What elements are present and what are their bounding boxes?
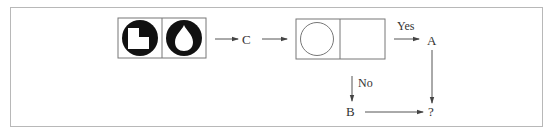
decision-box: [296, 19, 385, 59]
start-box: [118, 18, 206, 58]
node-c: C: [242, 32, 251, 47]
node-a: A: [427, 33, 437, 48]
flowchart-diagram: C Yes A No B ?: [0, 0, 549, 132]
edge-label-yes: Yes: [397, 19, 415, 33]
node-b: B: [346, 104, 355, 119]
node-result-question: ?: [428, 104, 434, 119]
circle-with-square-cutout-icon: [122, 20, 158, 56]
circle-outline-icon: [301, 23, 334, 56]
edge-label-no: No: [358, 76, 373, 90]
ring-with-drop-icon: [166, 20, 202, 56]
